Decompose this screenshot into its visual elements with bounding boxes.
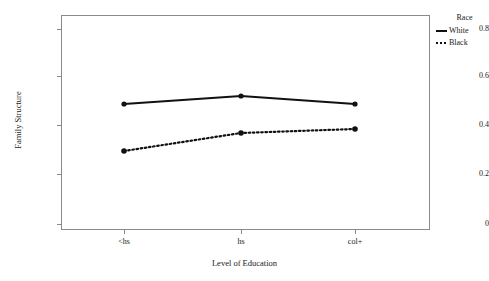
data-point-black-hs: [238, 130, 244, 136]
legend-title: Race: [436, 12, 489, 23]
legend-item-white[interactable]: White: [436, 25, 489, 36]
legend-label-black: Black: [449, 37, 468, 48]
chart-figure: 0.8 0.6 0.4 0.2 0 Family Structure <hs h…: [0, 0, 489, 281]
data-point-white-col-plus: [352, 101, 357, 106]
legend-label-white: White: [449, 25, 469, 36]
legend-swatch-dotted-line-icon: [436, 38, 447, 47]
legend: Race White Black: [436, 12, 489, 49]
legend-item-black[interactable]: Black: [436, 37, 489, 48]
data-layer: [0, 0, 489, 281]
series-white: [121, 93, 357, 106]
series-black: [121, 126, 358, 154]
data-point-white-lt-hs: [121, 101, 126, 106]
data-point-black-col-plus: [352, 126, 358, 132]
data-point-white-hs: [238, 93, 243, 98]
data-point-black-lt-hs: [121, 148, 127, 154]
legend-swatch-solid-line-icon: [436, 26, 447, 35]
